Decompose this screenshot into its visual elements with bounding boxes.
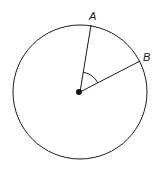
radius-to-a [80, 25, 91, 92]
center-point [76, 89, 82, 95]
radius-to-b [80, 61, 140, 92]
point-label-a: A [88, 10, 96, 22]
point-label-b: B [143, 51, 150, 63]
central-angle-arc [83, 72, 98, 83]
circle-diagram: A B [0, 0, 160, 172]
